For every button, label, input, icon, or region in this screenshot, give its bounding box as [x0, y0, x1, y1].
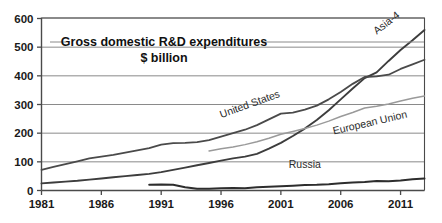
y-tick-label: 0 [27, 185, 33, 197]
x-tick-label: 1981 [29, 198, 55, 210]
x-tick-label: 1991 [148, 198, 174, 210]
x-tick-label: 2001 [268, 198, 294, 210]
x-tick-label: 1986 [89, 198, 115, 210]
x-tick-label: 2006 [328, 198, 354, 210]
series-label-russia: Russia [289, 158, 321, 170]
rd-expenditures-line-chart: 6005004003002001000 19811986199119962001… [0, 0, 442, 223]
y-tick-label: 100 [14, 156, 33, 168]
x-tick-label: 1996 [208, 198, 234, 210]
y-tick-label: 600 [14, 13, 33, 25]
chart-container: 6005004003002001000 19811986199119962001… [0, 0, 442, 223]
y-tick-label: 500 [14, 41, 33, 53]
y-tick-label: 400 [14, 70, 33, 82]
chart-subtitle: $ billion [140, 51, 187, 65]
y-tick-label: 300 [14, 99, 33, 111]
x-tick-label: 2011 [388, 198, 414, 210]
chart-title: Gross domestic R&D expenditures [61, 35, 267, 49]
y-tick-label: 200 [14, 127, 33, 139]
